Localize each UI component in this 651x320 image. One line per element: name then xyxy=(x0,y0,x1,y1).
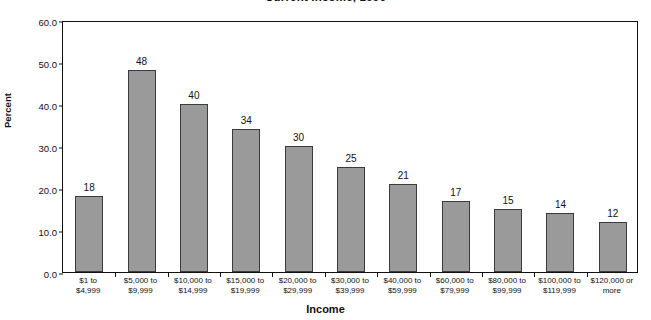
y-tick-mark xyxy=(59,274,63,275)
bar xyxy=(599,222,627,272)
bar-group: 21 xyxy=(377,22,429,272)
x-tick-label-line: $15,000 to xyxy=(226,276,264,286)
x-tick-label-line: $60,000 to xyxy=(436,276,474,286)
x-tick-label-line: $5,000 to xyxy=(124,276,157,286)
bar-group: 25 xyxy=(325,22,377,272)
x-tick-label: $80,000 to$99,999 xyxy=(488,276,526,295)
bar-group: 40 xyxy=(168,22,220,272)
bar-value-label: 30 xyxy=(293,132,304,143)
plot-area: 60.050.040.030.020.010.00.0 184840343025… xyxy=(62,21,638,273)
bar xyxy=(75,196,103,272)
y-tick-label: 60.0 xyxy=(39,17,58,28)
x-tick-label-line: $4,999 xyxy=(76,286,100,296)
bar-value-label: 12 xyxy=(607,208,618,219)
x-tick-label: $60,000 to$79,999 xyxy=(436,276,474,295)
y-tick-label: 20.0 xyxy=(39,185,58,196)
bar xyxy=(546,213,574,272)
x-axis-tick-labels: $1 to$4,999$5,000 to$9,999$10,000 to$14,… xyxy=(62,276,638,300)
bar-value-label: 14 xyxy=(555,199,566,210)
x-tick-label: $100,000 to$119,999 xyxy=(538,276,580,295)
x-tick-label-line: $39,999 xyxy=(331,286,369,296)
bar xyxy=(232,129,260,272)
bar-group: 15 xyxy=(482,22,534,272)
bar-value-label: 15 xyxy=(503,195,514,206)
bar-chart-figure: Current Income, 1996 Percent 60.050.040.… xyxy=(0,0,651,320)
bar xyxy=(389,184,417,272)
x-tick-label-line: $9,999 xyxy=(124,286,157,296)
x-tick-label-line: more xyxy=(590,286,633,296)
y-tick-label: 0.0 xyxy=(44,269,57,280)
x-tick-label: $20,000 to$29,999 xyxy=(279,276,317,295)
y-tick-label: 10.0 xyxy=(39,227,58,238)
bar xyxy=(442,201,470,272)
x-tick-label: $5,000 to$9,999 xyxy=(124,276,157,295)
x-tick-label: $1 to$4,999 xyxy=(76,276,100,295)
bar xyxy=(180,104,208,272)
x-tick-label-line: $100,000 to xyxy=(538,276,580,286)
bar-group: 12 xyxy=(587,22,639,272)
x-tick-label-line: $59,999 xyxy=(383,286,421,296)
x-tick-label-line: $79,999 xyxy=(436,286,474,296)
bar-group: 30 xyxy=(272,22,324,272)
bar xyxy=(285,146,313,272)
bar-group: 17 xyxy=(430,22,482,272)
bar xyxy=(337,167,365,272)
x-tick-label-line: $40,000 to xyxy=(383,276,421,286)
x-tick-label-line: $10,000 to xyxy=(174,276,212,286)
bar-group: 14 xyxy=(534,22,586,272)
x-axis-title: Income xyxy=(0,303,651,315)
x-tick-label-line: $20,000 to xyxy=(279,276,317,286)
bars-layer: 1848403430252117151412 xyxy=(63,22,637,272)
x-tick-label-line: $29,999 xyxy=(279,286,317,296)
x-tick-label-line: $80,000 to xyxy=(488,276,526,286)
x-tick-label-line: $120,000 or xyxy=(590,276,633,286)
bar-value-label: 48 xyxy=(136,56,147,67)
bar-value-label: 40 xyxy=(188,90,199,101)
x-tick-label-line: $1 to xyxy=(76,276,100,286)
y-axis-title: Percent xyxy=(2,93,13,128)
bar-value-label: 34 xyxy=(241,115,252,126)
x-tick-label: $10,000 to$14,999 xyxy=(174,276,212,295)
bar xyxy=(128,70,156,272)
bar xyxy=(494,209,522,272)
bar-group: 34 xyxy=(220,22,272,272)
y-tick-label: 30.0 xyxy=(39,143,58,154)
x-tick-label: $120,000 ormore xyxy=(590,276,633,295)
x-tick-label: $30,000 to$39,999 xyxy=(331,276,369,295)
x-tick-label: $40,000 to$59,999 xyxy=(383,276,421,295)
x-tick-label-line: $14,999 xyxy=(174,286,212,296)
bar-value-label: 18 xyxy=(84,182,95,193)
x-tick-label-line: $99,999 xyxy=(488,286,526,296)
x-tick-label-line: $19,999 xyxy=(226,286,264,296)
bar-group: 48 xyxy=(115,22,167,272)
x-tick-label: $15,000 to$19,999 xyxy=(226,276,264,295)
bar-value-label: 25 xyxy=(345,153,356,164)
bar-value-label: 17 xyxy=(450,187,461,198)
bar-value-label: 21 xyxy=(398,170,409,181)
y-tick-label: 50.0 xyxy=(39,59,58,70)
y-tick-label: 40.0 xyxy=(39,101,58,112)
x-tick-label-line: $119,999 xyxy=(538,286,580,296)
bar-group: 18 xyxy=(63,22,115,272)
chart-title: Current Income, 1996 xyxy=(0,0,651,3)
x-tick-label-line: $30,000 to xyxy=(331,276,369,286)
